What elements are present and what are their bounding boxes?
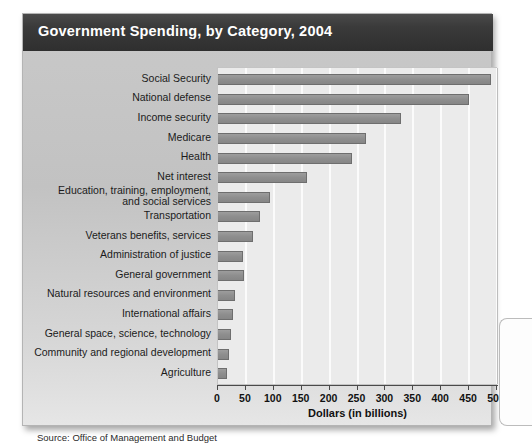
bars-group (218, 68, 497, 384)
category-label: National defense (132, 92, 211, 103)
category-axis-labels: Social SecurityNational defenseIncome se… (23, 67, 215, 385)
x-axis-tick-label: 250 (348, 392, 366, 404)
category-label-line: and social services (58, 196, 211, 208)
page-title: Government Spending, by Category, 2004 (38, 23, 332, 39)
x-axis-tick (301, 385, 302, 390)
bar-row (218, 364, 227, 384)
x-axis-tick (329, 385, 330, 390)
bar-row (218, 286, 235, 306)
x-axis-tick (412, 385, 413, 390)
category-label: Medicare (168, 132, 211, 143)
x-axis-tick (245, 385, 246, 390)
category-label-line: General space, science, technology (45, 328, 211, 339)
bar-row (218, 168, 307, 188)
category-label-line: Social Security (142, 73, 211, 84)
x-axis-tick (440, 385, 441, 390)
x-axis-tick (384, 385, 385, 390)
bar[interactable] (218, 231, 253, 242)
bar[interactable] (218, 94, 469, 105)
bar-row (218, 227, 253, 247)
source-note: Source: Office of Management and Budget (37, 432, 217, 443)
x-axis-tick (217, 385, 218, 390)
x-axis-tick-label: 450 (459, 392, 477, 404)
bar[interactable] (218, 172, 307, 183)
category-label-line: Transportation (144, 210, 211, 221)
edge-panel-fragment[interactable] (499, 318, 532, 426)
category-label-line: Agriculture (161, 367, 211, 378)
bar-row (218, 129, 366, 149)
category-label: Education, training, employment,and soci… (58, 185, 211, 208)
bar-row (218, 207, 260, 227)
bar[interactable] (218, 290, 235, 301)
chart-figure-panel: Government Spending, by Category, 2004 S… (22, 13, 492, 426)
bar-row (218, 148, 352, 168)
category-label: General government (115, 269, 211, 280)
plot-right-border (497, 68, 498, 384)
x-axis-tick-label: 100 (264, 392, 282, 404)
bar[interactable] (218, 251, 243, 262)
x-axis-tick-label: 200 (320, 392, 338, 404)
category-label-line: Natural resources and environment (47, 288, 211, 299)
category-label-line: Income security (137, 112, 211, 123)
bar-row (218, 109, 401, 129)
bar-row (218, 70, 491, 90)
category-label-line: General government (115, 269, 211, 280)
x-axis-tick-label: 300 (376, 392, 394, 404)
x-axis-line (217, 385, 498, 386)
category-label-line: National defense (132, 92, 211, 103)
category-label: Net interest (157, 171, 211, 182)
category-label: Transportation (144, 210, 211, 221)
bar[interactable] (218, 329, 231, 340)
category-label: Veterans benefits, services (86, 230, 211, 241)
bar-row (218, 344, 229, 364)
x-axis-title: Dollars (in billions) (217, 407, 498, 419)
x-axis-tick (496, 385, 497, 390)
screenshot-root: Government Spending, by Category, 2004 S… (0, 0, 532, 444)
bar[interactable] (218, 309, 233, 320)
category-label: Income security (137, 112, 211, 123)
chart-body: Social SecurityNational defenseIncome se… (23, 51, 493, 427)
category-label: Administration of justice (100, 249, 211, 260)
x-axis-tick-label: 400 (431, 392, 449, 404)
bar-row (218, 246, 243, 266)
category-label: Health (181, 151, 211, 162)
category-label-line: Net interest (157, 171, 211, 182)
bar[interactable] (218, 113, 401, 124)
x-axis-tick-label: 50 (239, 392, 251, 404)
category-label-line: Health (181, 151, 211, 162)
bar[interactable] (218, 74, 491, 85)
category-label-line: International affairs (122, 308, 211, 319)
bar-row (218, 266, 244, 286)
category-label: Natural resources and environment (47, 288, 211, 299)
category-label: Community and regional development (34, 347, 211, 358)
bar-row (218, 305, 233, 325)
category-label: Social Security (142, 73, 211, 84)
category-label-line: Administration of justice (100, 249, 211, 260)
plot-area (217, 67, 497, 385)
bar[interactable] (218, 192, 270, 203)
bar[interactable] (218, 270, 244, 281)
x-axis-tick-label: 0 (214, 392, 220, 404)
bar[interactable] (218, 349, 229, 360)
bar-row (218, 325, 231, 345)
bar[interactable] (218, 211, 260, 222)
bar[interactable] (218, 133, 366, 144)
category-label-line: Veterans benefits, services (86, 230, 211, 241)
x-axis-tick (357, 385, 358, 390)
bar-row (218, 188, 270, 208)
category-label-line: Medicare (168, 132, 211, 143)
x-axis-tick (468, 385, 469, 390)
chart-title-bar: Government Spending, by Category, 2004 (23, 14, 493, 51)
x-axis-tick-label: 150 (292, 392, 310, 404)
category-label: International affairs (122, 308, 211, 319)
x-axis-tick-label: 350 (404, 392, 422, 404)
category-label: Agriculture (161, 367, 211, 378)
category-label: General space, science, technology (45, 328, 211, 339)
bar-row (218, 90, 469, 110)
x-axis-tick (273, 385, 274, 390)
bar[interactable] (218, 368, 227, 379)
category-label-line: Community and regional development (34, 347, 211, 358)
bar[interactable] (218, 153, 352, 164)
